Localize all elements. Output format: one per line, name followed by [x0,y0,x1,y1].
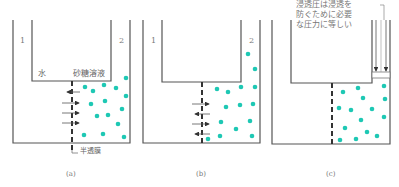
solution-label: 砂糖溶液 [73,70,105,78]
caption-a: (a) [66,171,76,178]
caption-c: (c) [326,171,335,178]
membrane-leader-a [72,150,78,153]
solute-dots-c [337,84,388,143]
solute-dots-b [206,52,258,142]
membrane-label: 半透膜 [80,148,101,155]
inner-tube-b [162,20,241,82]
piston-c [372,72,390,78]
caption-b: (b) [196,171,206,178]
side2-label-b: 2 [249,37,254,45]
water-label: 水 [38,70,46,78]
solute-dots-a [82,76,129,140]
annotation-leader-c [380,5,384,20]
pressure-arrows-c [376,20,386,72]
annotation-line-1: 浸透圧は浸透を [296,0,376,10]
panel-b [143,20,260,144]
annotation-line-2: 防ぐために必要 [296,10,376,20]
osmotic-pressure-annotation: 浸透圧は浸透を 防ぐために必要 な圧力に等しい [296,0,376,30]
annotation-line-3: な圧力に等しい [296,20,376,30]
panel-a [13,20,130,153]
side1-label-b: 1 [151,37,156,45]
side1-label-a: 1 [20,37,25,45]
side2-label-a: 2 [119,37,124,45]
